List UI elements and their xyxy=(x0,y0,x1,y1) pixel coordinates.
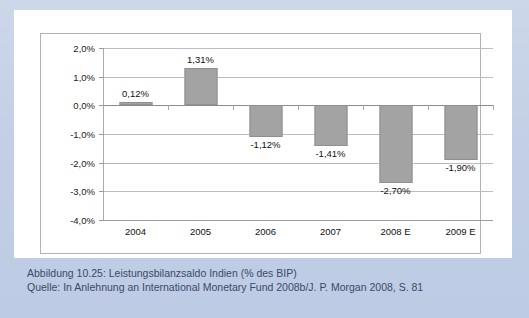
y-axis-tick xyxy=(99,220,104,221)
y-axis-labels: 2,0%1,0%0,0%-1,0%-2,0%-3,0%-4,0% xyxy=(49,48,95,220)
x-axis-tick-label: 2006 xyxy=(255,226,276,237)
x-axis-tick-label: 2008 E xyxy=(380,226,410,237)
bar-group: -1,41% xyxy=(298,48,363,220)
bar-value-label: 0,12% xyxy=(122,88,149,99)
bar-value-label: -1,12% xyxy=(250,139,280,150)
bar-group: -1,12% xyxy=(233,48,298,220)
caption-line-1: Abbildung 10.25: Leistungsbilanzsaldo In… xyxy=(27,266,497,280)
bar-value-label: -1,90% xyxy=(445,162,475,173)
caption-line-2: Quelle: In Anlehnung an International Mo… xyxy=(27,280,497,294)
y-axis-tick-label: -1,0% xyxy=(55,129,95,140)
x-axis-tick-label: 2004 xyxy=(125,226,146,237)
y-axis-tick xyxy=(99,134,104,135)
bar-group: 1,31% xyxy=(168,48,233,220)
y-axis-tick xyxy=(99,77,104,78)
x-axis-tick-label: 2009 E xyxy=(445,226,475,237)
y-axis-tick-label: 0,0% xyxy=(55,100,95,111)
y-axis-tick-label: -3,0% xyxy=(55,186,95,197)
y-axis-tick-label: 1,0% xyxy=(55,71,95,82)
bar[interactable] xyxy=(249,105,282,137)
y-axis-tick-label: 2,0% xyxy=(55,43,95,54)
y-axis-tick xyxy=(99,48,104,49)
bar[interactable] xyxy=(119,102,152,105)
y-axis-tick xyxy=(99,163,104,164)
bar[interactable] xyxy=(314,105,347,145)
bar-value-label: -2,70% xyxy=(380,185,410,196)
figure-caption: Abbildung 10.25: Leistungsbilanzsaldo In… xyxy=(27,266,497,294)
bar-group: -2,70% xyxy=(363,48,428,220)
x-axis-tick-label: 2005 xyxy=(190,226,211,237)
bar[interactable] xyxy=(184,68,217,106)
bar-value-label: -1,41% xyxy=(315,148,345,159)
category-tick xyxy=(493,105,494,110)
bar-group: 0,12% xyxy=(103,48,168,220)
bar-group: -1,90% xyxy=(428,48,493,220)
bar-value-label: 1,31% xyxy=(187,54,214,65)
page-background: 2,0%1,0%0,0%-1,0%-2,0%-3,0%-4,0% 0,12%1,… xyxy=(0,0,529,318)
chart-frame: 2,0%1,0%0,0%-1,0%-2,0%-3,0%-4,0% 0,12%1,… xyxy=(40,33,481,254)
x-axis-tick-label: 2007 xyxy=(320,226,341,237)
bar[interactable] xyxy=(379,105,412,182)
x-axis-labels: 20042005200620072008 E2009 E xyxy=(103,226,493,242)
plot-area: 0,12%1,31%-1,12%-1,41%-2,70%-1,90% xyxy=(103,48,493,220)
y-axis-tick xyxy=(99,105,104,106)
chart-card: 2,0%1,0%0,0%-1,0%-2,0%-3,0%-4,0% 0,12%1,… xyxy=(14,10,512,258)
x-axis-line xyxy=(103,220,493,221)
bar[interactable] xyxy=(444,105,477,159)
y-axis-tick-label: -4,0% xyxy=(55,215,95,226)
y-axis-tick xyxy=(99,191,104,192)
y-axis-tick-label: -2,0% xyxy=(55,157,95,168)
